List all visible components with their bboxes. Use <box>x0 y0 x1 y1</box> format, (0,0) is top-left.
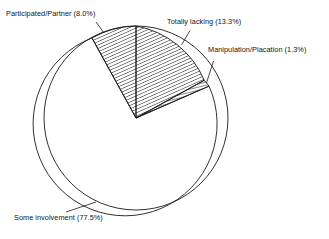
leader-line-some-involvement <box>66 202 96 212</box>
slice-label-totally-lacking: Totally lacking (13.3%) <box>167 17 241 26</box>
slice-label-some-involvement: Some involvement (77.5%) <box>14 213 103 222</box>
slice-label-manipulation-placation: Manipulation/Placation (1.3%) <box>208 45 306 54</box>
pie-chart-svg <box>0 0 329 239</box>
pie-slice-totally-lacking <box>136 26 204 118</box>
slice-label-participated-partner: Participated/Partner (8.0%) <box>6 9 95 18</box>
leader-line-participated <box>96 22 104 33</box>
pie-slice-participated-partner <box>92 26 136 118</box>
leader-line-manipulation <box>207 61 214 83</box>
pie-chart-figure: Participated/Partner (8.0%) Totally lack… <box>0 0 329 239</box>
